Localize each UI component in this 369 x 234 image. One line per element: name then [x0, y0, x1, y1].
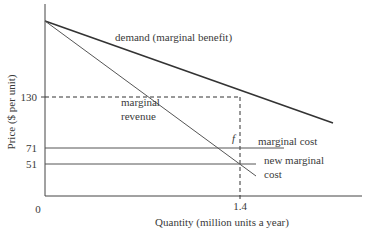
marginal-revenue-label-line1: marginal	[121, 96, 160, 108]
economics-chart: 130 71 51 0 1.4 Price ($ per unit) Quant…	[0, 0, 369, 234]
marginal-revenue-label-line2: revenue	[121, 110, 156, 122]
y-tick-label-71: 71	[26, 142, 37, 154]
x-axis-title: Quantity (million units a year)	[155, 216, 289, 229]
new-marginal-cost-label-line1: new marginal	[264, 154, 324, 166]
new-marginal-cost-label-line2: cost	[264, 168, 282, 180]
chart-canvas: 130 71 51 0 1.4 Price ($ per unit) Quant…	[0, 0, 369, 234]
y-axis-title: Price ($ per unit)	[5, 74, 18, 149]
demand-label: demand (marginal benefit)	[115, 31, 232, 44]
origin-label: 0	[35, 203, 41, 215]
marginal-cost-label: marginal cost	[258, 135, 317, 147]
y-tick-label-130: 130	[21, 91, 38, 103]
point-f-label: f	[232, 132, 237, 144]
y-tick-label-51: 51	[26, 158, 37, 170]
x-tick-label-1.4: 1.4	[233, 200, 247, 212]
